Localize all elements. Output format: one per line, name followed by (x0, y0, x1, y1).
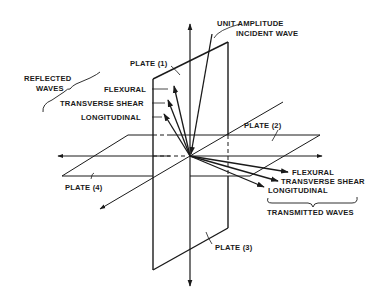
plate1-label: PLATE (1) (130, 59, 168, 68)
plate3-label: PLATE (3) (215, 243, 253, 252)
plate2-label: PLATE (2) (244, 121, 282, 130)
transmitted-brace (268, 197, 358, 207)
incident-wave-arrow (191, 34, 212, 154)
transmitted-flexural-label: FLEXURAL (292, 168, 334, 177)
reflected-flexural-label: FLEXURAL (104, 85, 146, 94)
plate-junction-wave-diagram: UNIT AMPLITUDE INCIDENT WAVE PLATE (1) P… (0, 0, 389, 304)
reflected-longitudinal-label: LONGITUDINAL (81, 113, 141, 122)
incident-label-line2: INCIDENT WAVE (236, 29, 298, 38)
axis-depth-arrow (100, 156, 190, 209)
incident-label-line1: UNIT AMPLITUDE (217, 19, 284, 28)
transmitted-longitudinal-arrow (190, 156, 264, 187)
transmitted-group-label: TRANSMITTED WAVES (267, 208, 354, 217)
reflected-shear-label: TRANSVERSE SHEAR (60, 99, 144, 108)
plate4-label: PLATE (4) (65, 183, 103, 192)
transmitted-shear-label: TRANSVERSE SHEAR (281, 177, 365, 186)
reflected-group-label-line1: REFLECTED (24, 74, 72, 83)
transmitted-longitudinal-label: LONGITUDINAL (268, 186, 328, 195)
reflected-group-label-line2: WAVES (36, 84, 64, 93)
